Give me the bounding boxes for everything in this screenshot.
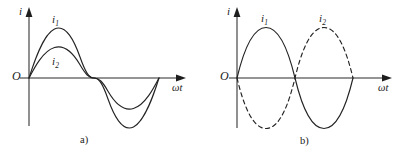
y-axis-label-panel-a: i <box>19 6 22 17</box>
panel-a-canvas <box>0 0 204 158</box>
curve-label-i1-panel-b-sub: 1 <box>264 18 268 27</box>
curve-label-i2-panel-b: i2 <box>319 13 326 24</box>
x-axis-arrow-icon <box>176 74 186 81</box>
caption-panel-b: b) <box>300 136 309 147</box>
curve-label-i2-panel-a-sub: 2 <box>55 61 59 70</box>
x-axis-label-panel-b: ωt <box>378 83 388 94</box>
caption-panel-a: a) <box>80 135 88 146</box>
chart-panel-a: i O ωt i1 i2 a) <box>0 0 204 158</box>
curve-label-i1-panel-a-sub: 1 <box>55 19 59 28</box>
y-axis-arrow-icon <box>26 7 33 17</box>
curve-label-i2-panel-a: i2 <box>52 56 59 67</box>
origin-label-panel-b: O <box>220 70 229 82</box>
curve-label-i1-panel-b: i1 <box>261 13 268 24</box>
y-axis-arrow-icon <box>234 7 241 17</box>
chart-panel-b: i O ωt i1 i2 b) <box>204 0 408 158</box>
y-axis-label-panel-b: i <box>227 6 230 17</box>
x-axis-arrow-icon <box>382 74 392 81</box>
x-axis-label-panel-a: ωt <box>172 83 182 94</box>
curve-label-i2-panel-b-sub: 2 <box>322 18 326 27</box>
origin-label-panel-a: O <box>12 70 21 82</box>
figure-root: i O ωt i1 i2 a) i O ωt i1 i2 b) <box>0 0 408 158</box>
curve-label-i1-panel-a: i1 <box>52 14 59 25</box>
